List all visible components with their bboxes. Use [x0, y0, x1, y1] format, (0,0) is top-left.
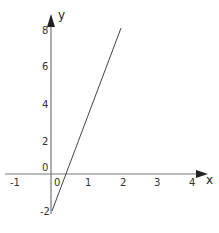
x-tick-label: 4: [189, 177, 195, 188]
y-tick-label: 8: [42, 25, 48, 36]
y-tick-label: 4: [42, 99, 48, 110]
y-tick-label: 6: [42, 61, 48, 72]
x-axis-label: x: [206, 173, 213, 187]
x-tick-label: 3: [154, 177, 160, 188]
x-tick-label: 0: [54, 177, 60, 188]
x-tick-label: -1: [10, 177, 20, 188]
y-tick-label: -2: [40, 206, 50, 217]
y-tick-label: 0: [42, 162, 48, 173]
x-tick-label: 2: [120, 177, 126, 188]
y-tick-label: 2: [42, 136, 48, 147]
x-tick-label: 1: [85, 177, 91, 188]
y-axis-label: y: [58, 8, 65, 22]
chart-canvas: y x -1 0 1 2 3 4 -2 0 2 4 6 8: [0, 0, 219, 233]
